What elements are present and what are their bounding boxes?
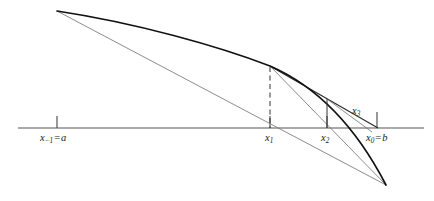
label-x3: x3 <box>352 106 360 117</box>
label-x1: x1 <box>265 133 273 144</box>
label-subscript: 3 <box>357 110 361 118</box>
figure-canvas <box>0 0 434 201</box>
label-subscript: 1 <box>270 137 274 145</box>
label-value: a <box>61 132 66 143</box>
label-base: x <box>321 132 326 143</box>
label-value: b <box>382 132 387 143</box>
label-equals: = <box>374 132 382 143</box>
label-base: x <box>40 132 45 143</box>
label-base: x <box>352 105 357 116</box>
secant-method-figure: x−1=a x1 x2 x3 x0=b <box>0 0 434 201</box>
label-equals: = <box>53 132 61 143</box>
secant-line-x1-x2 <box>270 66 378 128</box>
label-x2: x2 <box>321 133 329 144</box>
secant-line-a-b <box>57 11 386 185</box>
label-x0-equals-b: x0=b <box>366 133 387 144</box>
label-x-minus-1-equals-a: x−1=a <box>40 133 66 144</box>
label-subscript: 2 <box>326 137 330 145</box>
label-subscript: 0 <box>371 137 375 145</box>
label-base: x <box>265 132 270 143</box>
label-subscript: −1 <box>45 137 53 145</box>
label-base: x <box>366 132 371 143</box>
secant-line-x1-b <box>270 66 386 185</box>
